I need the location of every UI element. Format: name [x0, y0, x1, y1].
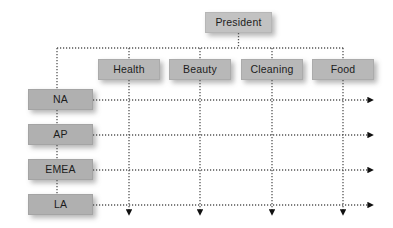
node-region-na[interactable]: NA — [28, 89, 93, 110]
node-product-beauty[interactable]: Beauty — [169, 59, 231, 80]
node-president-label: President — [215, 17, 261, 28]
node-product-food-label: Food — [331, 64, 356, 75]
node-region-emea-label: EMEA — [45, 164, 76, 175]
node-product-health-label: Health — [113, 64, 145, 75]
node-product-cleaning[interactable]: Cleaning — [241, 59, 303, 80]
node-region-na-label: NA — [53, 94, 68, 105]
node-region-ap[interactable]: AP — [28, 124, 93, 145]
node-region-la-label: LA — [54, 199, 67, 210]
node-product-beauty-label: Beauty — [183, 64, 217, 75]
node-product-cleaning-label: Cleaning — [250, 64, 293, 75]
node-region-la[interactable]: LA — [28, 194, 93, 215]
node-product-food[interactable]: Food — [312, 59, 374, 80]
node-region-ap-label: AP — [53, 129, 67, 140]
matrix-org-chart: President Health Beauty Cleaning Food NA… — [0, 0, 393, 228]
node-president[interactable]: President — [205, 12, 272, 33]
node-region-emea[interactable]: EMEA — [28, 159, 93, 180]
node-product-health[interactable]: Health — [98, 59, 160, 80]
